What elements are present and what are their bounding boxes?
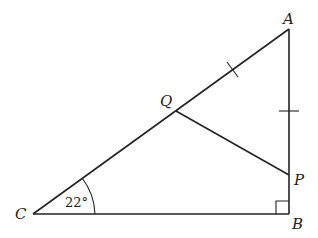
right-angle-marker: [276, 201, 289, 214]
label-p: P: [293, 171, 305, 189]
segment-qp: [176, 111, 289, 175]
label-a: A: [281, 10, 294, 28]
angle-label-c: 22°: [65, 195, 88, 210]
geometry-diagram: A B C Q P 22°: [0, 0, 318, 238]
tick-mark-aq: [227, 62, 238, 77]
side-ca: [33, 29, 289, 214]
label-q: Q: [160, 92, 172, 110]
label-c: C: [15, 205, 27, 223]
label-b: B: [291, 215, 303, 233]
